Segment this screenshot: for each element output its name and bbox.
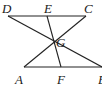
label-e: E bbox=[43, 1, 52, 16]
label-d: D bbox=[1, 1, 12, 16]
label-b: B bbox=[98, 72, 102, 87]
geometry-diagram: D E C G A F B bbox=[0, 0, 102, 97]
label-c: C bbox=[84, 1, 93, 16]
segment-ac bbox=[24, 16, 86, 67]
label-a: A bbox=[14, 72, 23, 87]
label-f: F bbox=[56, 72, 66, 87]
label-g: G bbox=[56, 35, 66, 50]
